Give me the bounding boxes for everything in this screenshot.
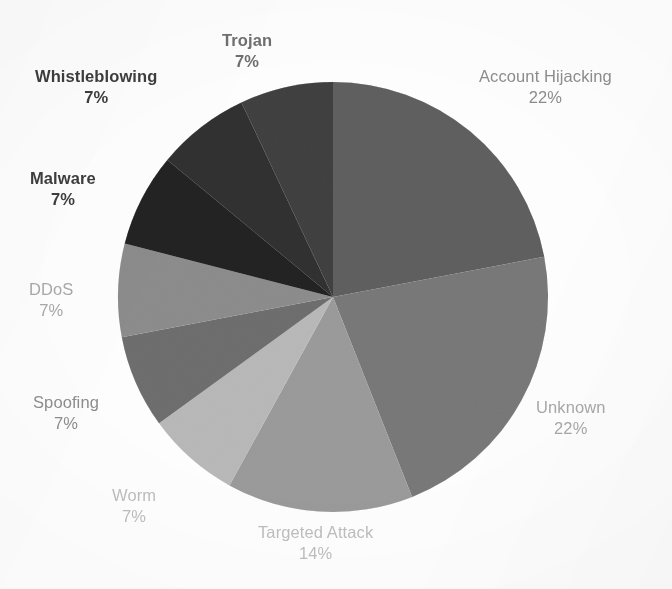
slice-label-percent: 7% xyxy=(35,87,157,108)
slice-label-percent: 22% xyxy=(479,87,612,108)
slice-label-unknown: Unknown22% xyxy=(536,397,606,440)
slice-label-percent: 7% xyxy=(33,413,99,434)
slice-label-name: Account Hijacking xyxy=(479,66,612,87)
slice-label-name: Spoofing xyxy=(33,392,99,413)
pie-scan-grain xyxy=(118,82,548,512)
slice-label-malware: Malware7% xyxy=(30,168,96,211)
slice-label-worm: Worm7% xyxy=(112,485,156,528)
slice-label-ddos: DDoS7% xyxy=(29,279,73,322)
slice-label-trojan: Trojan7% xyxy=(222,30,272,73)
slice-label-name: Trojan xyxy=(222,30,272,51)
slice-label-percent: 7% xyxy=(29,300,73,321)
slice-label-percent: 7% xyxy=(222,51,272,72)
slice-label-account-hijacking: Account Hijacking22% xyxy=(479,66,612,109)
slice-label-targeted-attack: Targeted Attack14% xyxy=(258,522,373,565)
pie-chart-page: Account Hijacking22%Unknown22%Targeted A… xyxy=(0,0,672,589)
slice-label-spoofing: Spoofing7% xyxy=(33,392,99,435)
slice-label-name: Unknown xyxy=(536,397,606,418)
slice-label-name: DDoS xyxy=(29,279,73,300)
slice-label-name: Malware xyxy=(30,168,96,189)
slice-label-name: Worm xyxy=(112,485,156,506)
slice-label-whistleblowing: Whistleblowing7% xyxy=(35,66,157,109)
slice-label-percent: 22% xyxy=(536,418,606,439)
slice-label-name: Targeted Attack xyxy=(258,522,373,543)
slice-label-name: Whistleblowing xyxy=(35,66,157,87)
slice-label-percent: 14% xyxy=(258,543,373,564)
slice-label-percent: 7% xyxy=(112,506,156,527)
slice-label-percent: 7% xyxy=(30,189,96,210)
